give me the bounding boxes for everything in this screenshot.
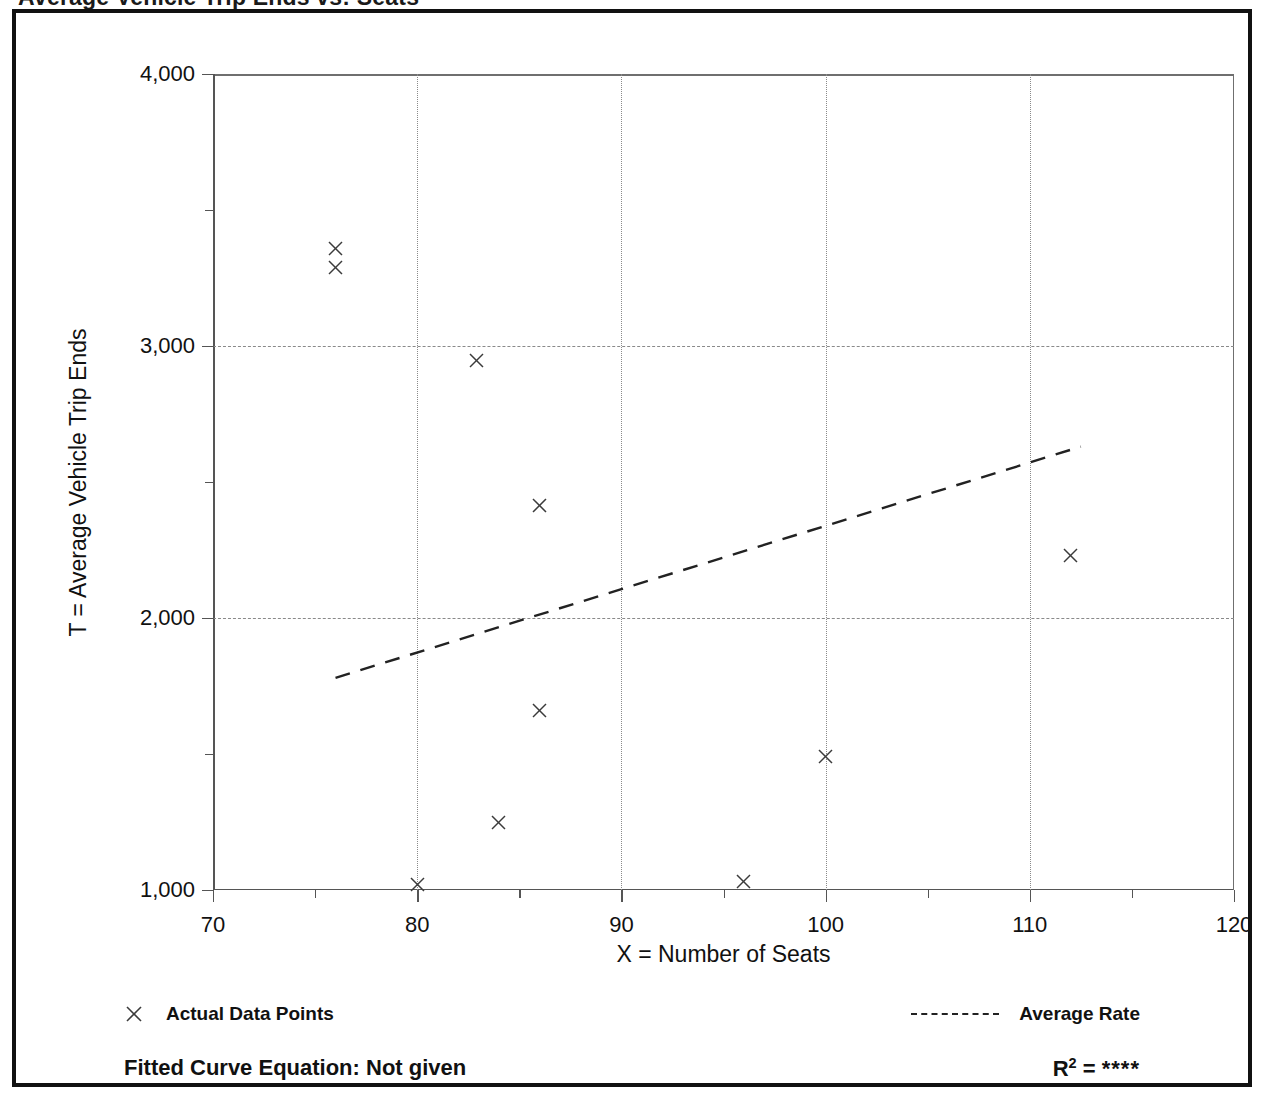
x-axis-title: X = Number of Seats <box>213 941 1234 968</box>
y-axis-title-text: T = Average Vehicle Trip Ends <box>66 328 93 636</box>
x-axis-minor-tick <box>724 890 725 898</box>
fitted-curve-equation: Fitted Curve Equation: Not given <box>124 1055 466 1081</box>
chart-page: Average Vehicle Trip Ends vs: Seats T = … <box>0 0 1275 1098</box>
gridline-vertical <box>621 74 622 890</box>
plot-area: 1,0002,0003,0004,000 708090100110120 <box>213 74 1234 890</box>
data-point-marker <box>409 876 426 893</box>
y-axis-minor-tick <box>205 754 214 755</box>
x-axis-tick-label: 90 <box>609 912 633 938</box>
y-axis-tick <box>202 618 214 619</box>
average-rate-trendline <box>213 74 1234 890</box>
x-axis-minor-tick <box>1132 890 1133 898</box>
x-axis-tick-label: 110 <box>1012 912 1047 938</box>
x-axis-tick <box>1234 890 1235 902</box>
legend-label-average-rate: Average Rate <box>1019 1003 1140 1025</box>
data-point-marker <box>1062 547 1079 564</box>
x-axis-tick <box>621 890 622 902</box>
page-border: T = Average Vehicle Trip Ends 1,0002,000… <box>12 9 1252 1087</box>
x-axis-tick-label: 100 <box>807 912 844 938</box>
y-axis-title: T = Average Vehicle Trip Ends <box>62 74 96 890</box>
plot-frame-top <box>213 74 1234 76</box>
gridline-vertical <box>1030 74 1031 890</box>
x-axis-tick-label: 80 <box>405 912 429 938</box>
y-axis-minor-tick <box>205 210 214 211</box>
data-point-marker <box>327 259 344 276</box>
gridline-vertical <box>826 74 827 890</box>
x-axis-tick <box>1030 890 1031 902</box>
gridline-horizontal <box>213 346 1234 347</box>
y-axis-tick-label: 1,000 <box>140 877 195 903</box>
gridline-vertical <box>417 74 418 890</box>
dashed-line-icon <box>911 1013 999 1015</box>
y-axis-tick-label: 4,000 <box>140 61 195 87</box>
x-axis-tick <box>213 890 214 902</box>
gridline-horizontal <box>213 618 1234 619</box>
data-point-marker <box>817 748 834 765</box>
legend-actual-data-points: Actual Data Points <box>124 1003 334 1025</box>
data-point-marker <box>327 240 344 257</box>
x-cross-icon <box>124 1004 144 1024</box>
y-axis-tick-label: 2,000 <box>140 605 195 631</box>
x-axis-minor-tick <box>315 890 316 898</box>
plot-frame-right <box>1233 74 1235 890</box>
legend-label-actual-data-points: Actual Data Points <box>166 1003 334 1025</box>
r-squared-value: R2 = **** <box>1053 1055 1140 1082</box>
y-axis-tick <box>202 346 214 347</box>
data-point-marker <box>531 702 548 719</box>
x-axis-minor-tick <box>928 890 929 898</box>
data-point-marker <box>735 873 752 890</box>
data-point-marker <box>490 814 507 831</box>
r-squared-stars: **** <box>1102 1056 1140 1081</box>
x-axis-tick <box>826 890 827 902</box>
r-squared-symbol: R <box>1053 1056 1069 1081</box>
y-axis-tick-label: 3,000 <box>140 333 195 359</box>
x-axis-tick-label: 70 <box>201 912 225 938</box>
y-axis-tick <box>202 74 214 75</box>
r-squared-equals: = <box>1077 1056 1102 1081</box>
data-point-marker <box>468 352 485 369</box>
r-squared-exponent: 2 <box>1069 1055 1077 1071</box>
legend-average-rate: Average Rate <box>911 1003 1140 1025</box>
data-point-marker <box>531 497 548 514</box>
x-axis-minor-tick <box>519 890 520 898</box>
y-axis-minor-tick <box>205 482 214 483</box>
x-axis-tick-label: 120 <box>1216 912 1253 938</box>
